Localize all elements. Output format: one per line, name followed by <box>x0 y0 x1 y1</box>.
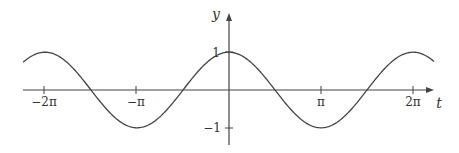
tick-label-neg-2pi: −2π <box>31 95 57 109</box>
y-axis-arrow-icon <box>226 13 232 21</box>
tick-label-neg-pi: −π <box>127 95 145 109</box>
tick-label-2pi: 2π <box>405 95 421 109</box>
x-axis-arrow-icon <box>426 87 434 93</box>
tick-label-pi: π <box>317 95 325 109</box>
y-axis-label: y <box>211 6 221 22</box>
tick-label-y-1: 1 <box>212 46 220 60</box>
cosine-plot: −2π −π π 2π 1 −1 y t <box>0 0 459 153</box>
x-axis-label: t <box>436 95 442 111</box>
tick-label-y-neg1: −1 <box>203 121 221 135</box>
